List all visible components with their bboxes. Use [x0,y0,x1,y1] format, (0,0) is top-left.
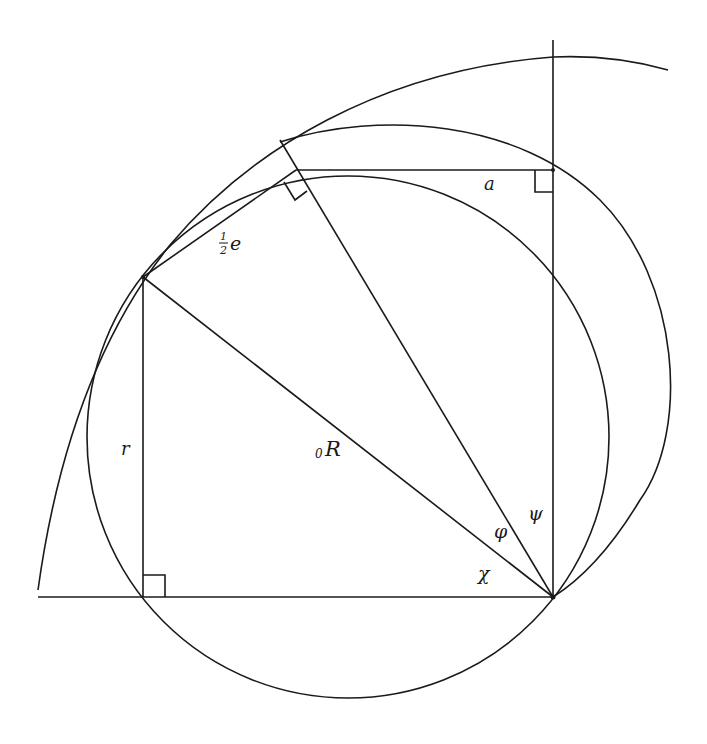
right-angle-top-left [284,182,307,200]
label-0R: 0 R [315,437,341,461]
vertex-top-right [551,168,555,172]
geometry-diagram: a 1 2 e r 0 R ψ φ χ [0,0,707,744]
label-0R-main: R [324,437,341,461]
label-half-e-var: e [230,232,241,254]
segment-0R [143,277,553,597]
label-r: r [121,438,131,459]
segment-half-e [143,170,296,277]
label-chi: χ [476,562,491,584]
diagonal-line [280,140,553,597]
label-half-e-num: 1 [220,230,227,243]
right-arc [280,125,671,597]
label-0R-sub: 0 [315,447,323,461]
label-psi: ψ [528,502,544,524]
label-a: a [484,173,495,194]
vertex-O [551,595,556,600]
label-half-e-den: 2 [219,244,227,257]
label-half-e: 1 2 e [219,230,241,257]
label-phi: φ [494,520,508,542]
vertex-P [141,275,145,279]
right-angle-bottom-left [143,575,165,597]
outer-arc [38,57,668,590]
right-angle-top-right [535,170,553,192]
